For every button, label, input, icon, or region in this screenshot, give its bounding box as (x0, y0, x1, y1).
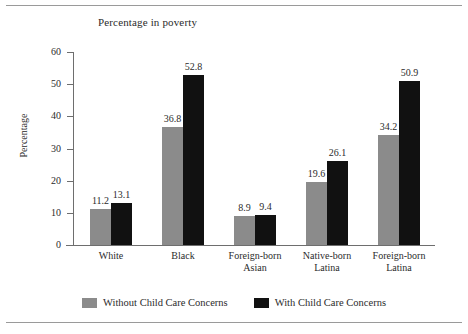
legend-swatch-icon (254, 298, 269, 308)
bar-value-label: 52.8 (178, 62, 210, 72)
legend-label: With Child Care Concerns (275, 297, 386, 308)
bar-value-label: 9.4 (250, 202, 282, 212)
x-category-label-line: Black (145, 250, 221, 262)
x-axis-line (66, 245, 435, 246)
y-tick-label: 60 (33, 47, 61, 57)
x-category-label-line: Native-born (289, 250, 365, 262)
x-category-label: Black (145, 250, 221, 262)
x-category-label-line: White (73, 250, 149, 262)
bar-0-4 (378, 135, 399, 245)
top-rule (6, 5, 462, 6)
chart-legend: Without Child Care ConcernsWith Child Ca… (0, 297, 468, 308)
legend-label: Without Child Care Concerns (103, 297, 228, 308)
y-tick-mark (67, 245, 74, 246)
legend-swatch-icon (82, 298, 97, 308)
y-tick-label: 50 (33, 79, 61, 89)
bar-0-2 (234, 216, 255, 245)
x-category-label: White (73, 250, 149, 262)
legend-item-1[interactable]: With Child Care Concerns (254, 297, 386, 308)
x-category-label-line: Asian (217, 262, 293, 274)
bar-1-2 (255, 215, 276, 245)
y-axis-title: Percentage (18, 91, 29, 181)
y-tick-label: 20 (33, 176, 61, 186)
bar-value-label: 50.9 (394, 68, 426, 78)
chart-title: Percentage in poverty (98, 16, 197, 28)
bar-1-3 (327, 161, 348, 245)
x-category-label-line: Latina (361, 262, 437, 274)
bar-1-1 (183, 75, 204, 245)
bar-1-4 (399, 81, 420, 245)
x-category-label: Foreign-bornAsian (217, 250, 293, 274)
bar-0-1 (162, 127, 183, 245)
y-tick-label: 30 (33, 144, 61, 154)
y-tick-label: 0 (33, 240, 61, 250)
bar-0-0 (90, 209, 111, 245)
x-category-label-line: Foreign-born (217, 250, 293, 262)
legend-item-0[interactable]: Without Child Care Concerns (82, 297, 228, 308)
figure-container: Percentage in poverty Percentage 0102030… (0, 0, 468, 334)
x-category-label: Foreign-bornLatina (361, 250, 437, 274)
y-tick-label: 10 (33, 208, 61, 218)
bar-value-label: 26.1 (322, 148, 354, 158)
y-tick-label: 40 (33, 111, 61, 121)
x-category-label: Native-bornLatina (289, 250, 365, 274)
x-category-label-line: Foreign-born (361, 250, 437, 262)
bar-0-3 (306, 182, 327, 245)
bottom-rule (6, 322, 462, 323)
bar-value-label: 13.1 (106, 190, 138, 200)
x-category-label-line: Latina (289, 262, 365, 274)
bar-1-0 (111, 203, 132, 245)
